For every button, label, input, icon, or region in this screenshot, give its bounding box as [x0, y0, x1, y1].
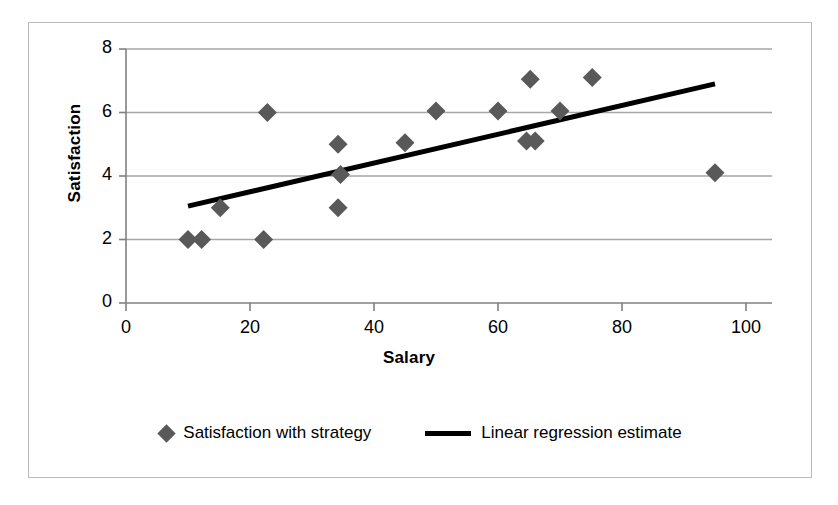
plot-area: Satisfaction Salary 86420 020406080100 [29, 23, 813, 363]
scatter-plot-svg [29, 23, 813, 363]
data-point-marker [489, 101, 508, 120]
x-axis-title: Salary [29, 348, 789, 368]
data-point-marker [192, 230, 211, 249]
chart-legend: Satisfaction with strategy Linear regres… [29, 413, 813, 453]
regression-line [188, 84, 715, 206]
y-axis-title: Satisfaction [65, 63, 85, 243]
y-tick-label: 4 [84, 164, 112, 185]
tick-marks-group [119, 49, 746, 311]
y-tick-label: 2 [84, 228, 112, 249]
data-point-marker [396, 133, 415, 152]
x-tick-label: 80 [602, 317, 642, 338]
x-tick-label: 0 [106, 317, 146, 338]
data-point-marker [521, 70, 540, 89]
data-point-marker [329, 198, 348, 217]
x-tick-label: 60 [478, 317, 518, 338]
x-tick-label: 20 [230, 317, 270, 338]
data-point-marker [258, 103, 277, 122]
legend-entry-scatter: Satisfaction with strategy [160, 423, 371, 443]
data-points-group [179, 68, 725, 249]
data-point-marker [329, 135, 348, 154]
data-point-marker [583, 68, 602, 87]
data-point-marker [254, 230, 273, 249]
legend-entry-line: Linear regression estimate [425, 423, 681, 443]
legend-label-line: Linear regression estimate [481, 423, 681, 443]
data-point-marker [706, 163, 725, 182]
chart-figure: Satisfaction Salary 86420 020406080100 S… [28, 22, 812, 478]
line-marker-icon [425, 431, 471, 436]
y-tick-label: 6 [84, 101, 112, 122]
y-tick-label: 0 [84, 291, 112, 312]
legend-label-scatter: Satisfaction with strategy [183, 423, 371, 443]
diamond-marker-icon [158, 424, 176, 442]
x-tick-label: 100 [726, 317, 766, 338]
y-tick-label: 8 [84, 37, 112, 58]
x-tick-label: 40 [354, 317, 394, 338]
data-point-marker [427, 101, 446, 120]
